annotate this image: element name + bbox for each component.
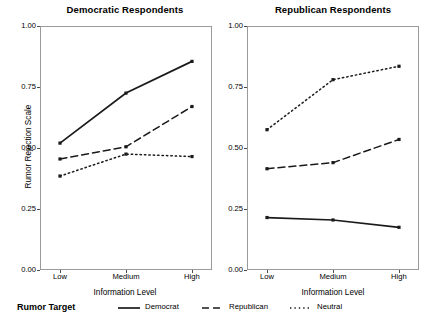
legend-key-republican	[202, 305, 224, 311]
data-point	[190, 155, 193, 158]
series-lines	[0, 0, 431, 323]
legend-label-democrat: Democrat	[145, 302, 179, 311]
legend-label-neutral: Neutral	[317, 302, 342, 311]
data-point	[58, 142, 61, 145]
legend-key-neutral	[290, 305, 312, 311]
data-point	[331, 78, 334, 81]
data-point	[124, 153, 127, 156]
data-point	[331, 218, 334, 221]
data-point	[331, 161, 334, 164]
data-point	[397, 65, 400, 68]
series-line-republican-democratic	[60, 107, 192, 159]
data-point	[190, 60, 193, 63]
data-point	[397, 138, 400, 141]
series-line-democrat-democratic	[60, 61, 192, 143]
chart-figure: Democratic Respondents Republican Respon…	[0, 0, 431, 323]
data-point	[58, 157, 61, 160]
data-point	[265, 128, 268, 131]
data-point	[265, 167, 268, 170]
series-line-neutral-republican	[267, 66, 399, 129]
data-point	[58, 174, 61, 177]
legend-key-democrat	[118, 305, 140, 311]
legend-title: Rumor Target	[17, 302, 75, 312]
data-point	[397, 226, 400, 229]
data-point	[124, 145, 127, 148]
legend-label-republican: Republican	[229, 302, 268, 311]
data-point	[124, 92, 127, 95]
series-line-republican-republican	[267, 139, 399, 168]
data-point	[190, 105, 193, 108]
data-point	[265, 216, 268, 219]
series-line-neutral-democratic	[60, 154, 192, 176]
